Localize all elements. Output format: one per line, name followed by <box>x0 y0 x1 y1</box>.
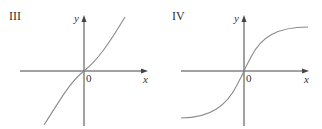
y-axis-label: y <box>74 12 79 24</box>
graph-panel-iii: III y x 0 <box>0 0 161 129</box>
origin-label: 0 <box>246 72 252 84</box>
y-axis-arrow-icon <box>82 15 87 22</box>
origin-label: 0 <box>86 72 92 84</box>
graph-panel-iv: IV y x 0 <box>161 0 322 129</box>
y-axis-arrow-icon <box>242 15 247 22</box>
graph-iv <box>161 0 322 129</box>
x-axis-label: x <box>304 73 309 85</box>
x-axis-label: x <box>143 73 148 85</box>
y-axis-label: y <box>234 12 239 24</box>
graph-iii <box>0 0 161 129</box>
